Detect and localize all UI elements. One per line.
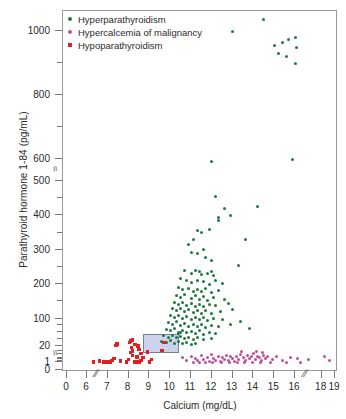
data-point-series-0 bbox=[173, 316, 176, 319]
data-point-series-0 bbox=[173, 342, 176, 345]
legend-item-0[interactable]: Hyperparathyroidism bbox=[68, 13, 202, 25]
y-axis: 10008006005004003002001002010≈≈ bbox=[0, 0, 62, 419]
x-tick bbox=[334, 371, 335, 378]
y-tick bbox=[55, 345, 62, 346]
x-tick bbox=[169, 371, 170, 378]
data-point-series-0 bbox=[223, 298, 226, 301]
data-point-series-0 bbox=[281, 41, 284, 44]
legend-marker-icon bbox=[68, 30, 72, 34]
data-point-series-2 bbox=[141, 356, 144, 359]
data-point-series-0 bbox=[192, 323, 195, 326]
data-point-series-0 bbox=[183, 269, 186, 272]
data-point-series-2 bbox=[135, 355, 138, 358]
data-point-series-1 bbox=[296, 357, 299, 360]
data-point-series-0 bbox=[212, 296, 215, 299]
data-point-series-1 bbox=[323, 355, 326, 358]
data-point-series-0 bbox=[171, 334, 174, 337]
data-point-series-2 bbox=[131, 354, 134, 357]
data-point-series-2 bbox=[160, 349, 163, 352]
data-point-series-0 bbox=[295, 46, 298, 49]
x-axis-break-mark: ∕∕ bbox=[303, 368, 307, 379]
x-tick-label: 13 bbox=[226, 381, 237, 392]
data-point-series-0 bbox=[294, 36, 297, 39]
data-point-series-0 bbox=[208, 283, 211, 286]
data-point-series-1 bbox=[307, 358, 310, 361]
data-point-series-0 bbox=[171, 323, 174, 326]
data-point-series-0 bbox=[229, 214, 232, 217]
x-tick-label: 9 bbox=[146, 381, 152, 392]
data-point-series-2 bbox=[92, 360, 95, 363]
data-point-series-0 bbox=[202, 316, 205, 319]
y-tick-label: 500 bbox=[33, 175, 50, 186]
data-point-series-1 bbox=[185, 359, 188, 362]
data-point-series-0 bbox=[200, 312, 203, 315]
plot-area bbox=[62, 10, 337, 371]
data-point-series-1 bbox=[328, 359, 331, 362]
data-point-series-0 bbox=[285, 55, 288, 58]
data-point-series-0 bbox=[210, 324, 213, 327]
data-point-series-2 bbox=[133, 360, 136, 363]
data-point-series-2 bbox=[127, 358, 130, 361]
data-point-series-0 bbox=[181, 288, 184, 291]
legend-marker-icon bbox=[68, 43, 72, 47]
data-point-series-2 bbox=[98, 359, 101, 362]
data-point-series-0 bbox=[221, 318, 224, 321]
data-point-series-0 bbox=[179, 324, 182, 327]
data-point-series-0 bbox=[177, 314, 180, 317]
x-tick bbox=[66, 371, 67, 378]
data-point-series-0 bbox=[173, 301, 176, 304]
legend-item-2[interactable]: Hypoparathyroidism bbox=[68, 39, 202, 51]
data-point-series-0 bbox=[177, 303, 180, 306]
data-point-series-0 bbox=[206, 319, 209, 322]
x-tick-label: 14 bbox=[247, 381, 258, 392]
data-point-series-1 bbox=[192, 361, 195, 364]
data-point-series-0 bbox=[185, 315, 188, 318]
x-tick bbox=[252, 371, 253, 378]
legend-label: Hypoparathyroidism bbox=[78, 40, 162, 51]
data-point-series-0 bbox=[206, 299, 209, 302]
data-point-series-0 bbox=[183, 293, 186, 296]
data-point-series-0 bbox=[200, 273, 203, 276]
data-point-series-1 bbox=[206, 356, 209, 359]
x-tick bbox=[232, 371, 233, 378]
x-tick-label: 7 bbox=[104, 381, 110, 392]
y-tick bbox=[55, 214, 62, 215]
data-point-series-0 bbox=[169, 314, 172, 317]
data-point-series-0 bbox=[192, 311, 195, 314]
x-axis-title: Calcium (mg/dL) bbox=[62, 400, 338, 411]
data-point-series-0 bbox=[194, 269, 197, 272]
x-tick bbox=[294, 371, 295, 378]
data-point-series-0 bbox=[214, 279, 217, 282]
data-point-series-2 bbox=[162, 341, 165, 344]
data-point-series-0 bbox=[200, 290, 203, 293]
data-point-series-1 bbox=[269, 361, 272, 364]
legend-item-1[interactable]: Hypercalcemia of malignancy bbox=[68, 26, 202, 38]
data-point-series-1 bbox=[275, 355, 278, 358]
data-point-series-1 bbox=[214, 359, 217, 362]
data-point-series-0 bbox=[190, 297, 193, 300]
data-point-series-0 bbox=[198, 318, 201, 321]
data-point-series-1 bbox=[281, 359, 284, 362]
data-point-series-0 bbox=[175, 309, 178, 312]
data-point-series-0 bbox=[210, 312, 213, 315]
data-point-series-2 bbox=[137, 348, 140, 351]
data-point-series-0 bbox=[190, 318, 193, 321]
data-point-series-0 bbox=[198, 303, 201, 306]
data-point-series-0 bbox=[214, 332, 217, 335]
x-axis-break-mark: ∕∕ bbox=[94, 368, 98, 379]
data-point-series-0 bbox=[198, 329, 201, 332]
data-point-series-2 bbox=[112, 357, 115, 360]
data-point-series-0 bbox=[217, 325, 220, 328]
data-point-series-0 bbox=[190, 272, 193, 275]
data-point-series-1 bbox=[240, 350, 243, 353]
data-point-series-0 bbox=[179, 331, 182, 334]
y-tick-label: 100 bbox=[33, 312, 50, 323]
data-point-series-0 bbox=[204, 326, 207, 329]
data-point-series-0 bbox=[167, 321, 170, 324]
data-point-series-0 bbox=[190, 330, 193, 333]
data-point-series-0 bbox=[196, 309, 199, 312]
legend-label: Hyperparathyroidism bbox=[78, 14, 166, 25]
y-tick bbox=[55, 318, 62, 319]
data-point-series-0 bbox=[183, 322, 186, 325]
data-point-series-1 bbox=[217, 355, 220, 358]
